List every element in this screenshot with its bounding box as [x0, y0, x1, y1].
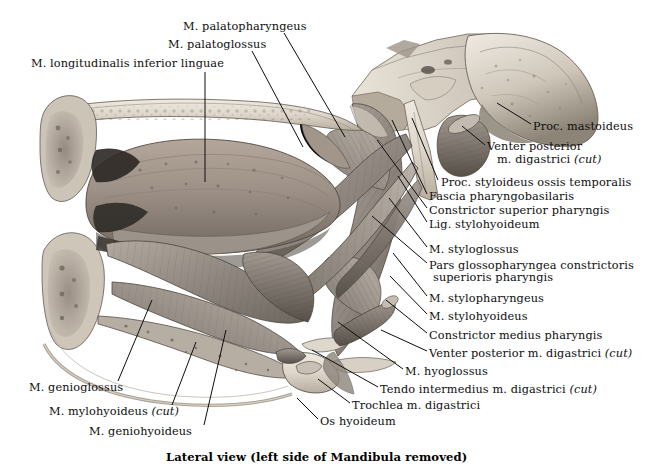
label-cut-annotation: (cut) [574, 153, 601, 166]
label-proc-mastoideus: Proc. mastoideus [533, 120, 633, 134]
label-m-mylohyoideus-cut: M. mylohyoideus (cut) [49, 405, 179, 419]
label-m-genioglossus: M. genioglossus [29, 381, 123, 395]
label-m-palatopharyngeus: M. palatopharyngeus [183, 20, 307, 34]
label-venter-posterior-m-digastrici-cut-line2: m. digastrici (cut) [497, 153, 601, 167]
anatomy-illustration [0, 0, 651, 473]
label-m-styloglossus: M. styloglossus [429, 243, 519, 257]
figure-caption: Lateral view (left side of Mandibula rem… [166, 450, 467, 464]
label-cut-annotation: (cut) [605, 347, 632, 360]
label-line-2: m. digastrici [497, 153, 574, 166]
label-m-stylopharyngeus: M. stylopharyngeus [429, 292, 544, 306]
label-venter-posterior-m-digastrici-cut-2: Venter posterior m. digastrici (cut) [429, 347, 632, 361]
label-lig-stylohyoideum: Lig. stylohyoideum [429, 218, 539, 232]
label-venter-posterior-m-digastrici-cut: Venter posterior [487, 140, 582, 154]
anatomy-plate: M. palatopharyngeus M. palatoglossus M. … [0, 0, 651, 473]
label-m-longitudinalis-inferior-linguae: M. longitudinalis inferior linguae [31, 57, 224, 71]
label-text: Venter posterior m. digastrici [429, 347, 605, 360]
label-proc-styloideus-ossis-temporalis: Proc. styloideus ossis temporalis [441, 176, 631, 190]
label-m-hyoglossus: M. hyoglossus [405, 365, 488, 379]
label-pars-glossopharyngea-line2: superioris pharyngis [433, 271, 553, 285]
label-text: M. mylohyoideus [49, 405, 152, 418]
label-cut-annotation: (cut) [569, 383, 596, 396]
label-cut-annotation: (cut) [152, 405, 179, 418]
label-trochlea-m-digastrici: Trochlea m. digastrici [352, 399, 480, 413]
label-constrictor-medius-pharyngis: Constrictor medius pharyngis [429, 329, 602, 343]
label-os-hyoideum: Os hyoideum [320, 415, 396, 429]
label-tendo-intermedius-m-digastrici-cut: Tendo intermedius m. digastrici (cut) [380, 383, 597, 397]
label-constrictor-superior-pharyngis: Constrictor superior pharyngis [429, 204, 609, 218]
label-line-1: Venter posterior [487, 140, 582, 153]
label-m-stylohyoideus: M. stylohyoideus [429, 310, 528, 324]
label-fascia-pharyngobasilaris: Fascia pharyngobasilaris [429, 190, 574, 204]
label-m-palatoglossus: M. palatoglossus [168, 38, 266, 52]
label-text: Tendo intermedius m. digastrici [380, 383, 569, 396]
label-m-geniohyoideus: M. geniohyoideus [89, 425, 192, 439]
